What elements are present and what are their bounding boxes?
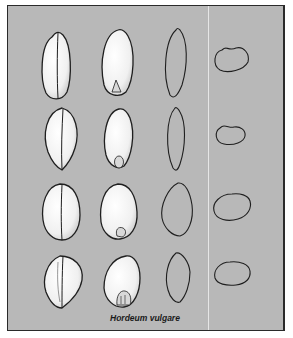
species-caption: Hordeum vulgare — [110, 313, 220, 323]
ventral-grain-icon — [42, 32, 70, 98]
lateral-outline-icon — [165, 29, 186, 97]
ventral-grain-icon — [45, 256, 83, 308]
grain-row-4 — [45, 253, 251, 308]
cross-section-icon — [215, 48, 248, 72]
grain-row-1 — [42, 29, 248, 99]
grain-illustrations — [0, 0, 293, 338]
cross-section-icon — [215, 262, 250, 285]
lateral-outline-icon — [162, 183, 193, 236]
lateral-outline-icon — [168, 108, 185, 170]
cross-section-icon — [216, 126, 245, 145]
grain-row-2 — [45, 108, 245, 170]
lateral-outline-icon — [166, 253, 190, 302]
cross-section-icon — [214, 194, 251, 221]
grain-row-3 — [43, 183, 251, 240]
